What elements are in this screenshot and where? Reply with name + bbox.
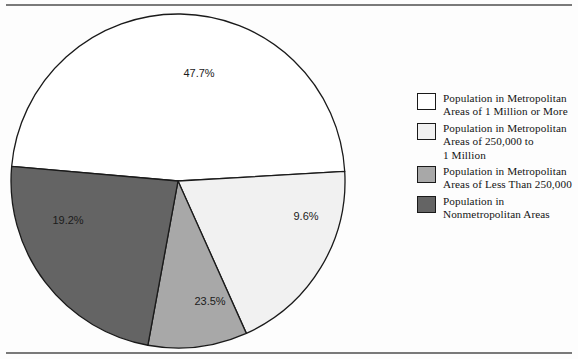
pie-slice (12, 14, 345, 181)
legend-swatch-icon (417, 196, 436, 213)
pie-chart-figure: 47.7%19.2%9.6%23.5% Population in Metrop… (0, 0, 578, 359)
legend-swatch-icon (417, 166, 436, 183)
legend-item[interactable]: Population in Nonmetropolitan Areas (417, 195, 575, 222)
chart-legend: Population in Metropolitan Areas of 1 Mi… (417, 92, 575, 222)
legend-swatch-icon (417, 123, 436, 140)
legend-item[interactable]: Population in Metropolitan Areas of 250,… (417, 122, 575, 162)
legend-item[interactable]: Population in Metropolitan Areas of 1 Mi… (417, 92, 575, 119)
pie-slices-group (11, 14, 345, 348)
legend-item-label: Population in Metropolitan Areas of Less… (443, 165, 572, 192)
legend-item-label: Population in Nonmetropolitan Areas (443, 195, 550, 222)
legend-swatch-icon (417, 93, 436, 110)
pie-chart-svg: 47.7%19.2%9.6%23.5% (0, 0, 380, 359)
legend-item-label: Population in Metropolitan Areas of 1 Mi… (443, 92, 568, 119)
pie-chart-area: 47.7%19.2%9.6%23.5% (0, 0, 380, 359)
pie-slice-value-label: 9.6% (293, 210, 318, 222)
pie-slice-value-label: 19.2% (52, 214, 83, 226)
pie-slice (11, 166, 178, 345)
legend-item-label: Population in Metropolitan Areas of 250,… (443, 122, 567, 162)
pie-slice-value-label: 47.7% (183, 67, 214, 79)
pie-slice-value-label: 23.5% (194, 295, 225, 307)
legend-item[interactable]: Population in Metropolitan Areas of Less… (417, 165, 575, 192)
